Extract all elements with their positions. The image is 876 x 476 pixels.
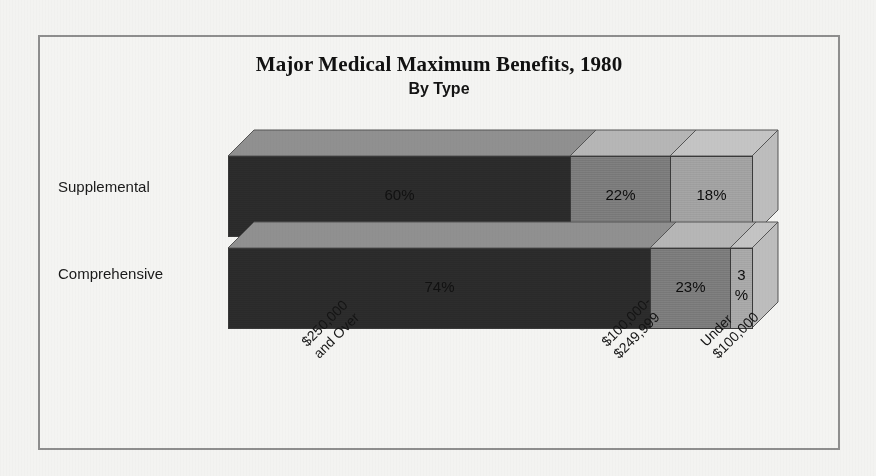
chart-figure: Major Medical Maximum Benefits, 1980 By … xyxy=(0,0,876,476)
bar-comprehensive-segment-0: 74% xyxy=(228,248,651,329)
bar-comprehensive-value-0: 74% xyxy=(229,279,650,294)
bar-supplemental-value-1: 22% xyxy=(571,187,670,202)
bar-supplemental-value-0: 60% xyxy=(229,187,570,202)
bar-comprehensive-value-2-line1: 3 xyxy=(731,267,752,283)
bar-comprehensive-value-1: 23% xyxy=(651,279,730,294)
plot-area: 60% 22% 18% xyxy=(0,0,876,476)
bar-supplemental-value-2: 18% xyxy=(671,187,752,202)
